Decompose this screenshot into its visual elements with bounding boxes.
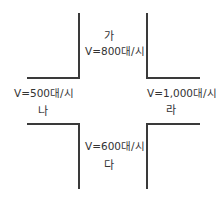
road-edge-se-horizontal (146, 123, 200, 125)
south-approach-volume: V=600대/시 (85, 138, 145, 153)
road-edge-ne-vertical (146, 13, 148, 79)
road-edge-nw-vertical (78, 13, 80, 79)
road-edge-nw-horizontal (27, 77, 80, 79)
road-edge-sw-vertical (78, 123, 80, 189)
road-edge-sw-horizontal (27, 123, 80, 125)
road-edge-ne-horizontal (146, 77, 200, 79)
west-approach-name: 나 (38, 102, 48, 118)
east-approach-volume: V=1,000대/시 (147, 85, 217, 100)
south-approach-name: 다 (104, 156, 114, 172)
west-approach-volume: V=500대/시 (14, 85, 74, 100)
east-approach-name: 라 (166, 101, 176, 117)
road-edge-se-vertical (146, 123, 148, 189)
north-approach-name: 가 (104, 27, 114, 43)
north-approach-volume: V=800대/시 (85, 43, 145, 58)
